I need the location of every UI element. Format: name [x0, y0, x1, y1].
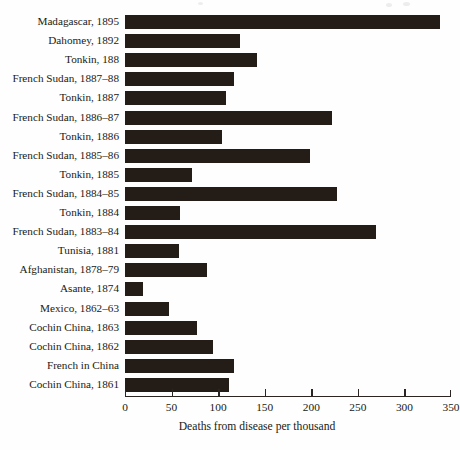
bar [125, 34, 240, 48]
bar [125, 206, 180, 220]
bar-row: Tonkin, 188 [125, 52, 451, 71]
bar [125, 53, 257, 67]
bar-category-label: Tonkin, 1886 [59, 128, 119, 144]
bar-category-label: Dahomey, 1892 [48, 32, 119, 48]
bar-category-label: French Sudan, 1884–85 [12, 185, 119, 201]
bar-category-label: Tonkin, 188 [65, 51, 119, 67]
bar-row: Cochin China, 1862 [125, 339, 451, 358]
x-axis-right-cap [450, 390, 451, 397]
bar-category-label: Tonkin, 1884 [59, 204, 119, 220]
bar-row: Dahomey, 1892 [125, 33, 451, 52]
x-axis-tick [404, 389, 405, 397]
bar-row: Tonkin, 1887 [125, 90, 451, 109]
bar [125, 302, 169, 316]
bar-category-label: Madagascar, 1895 [37, 13, 119, 29]
x-axis-tick [265, 389, 266, 397]
bar-category-label: Tonkin, 1885 [59, 166, 119, 182]
x-axis-tick-label: 100 [210, 400, 227, 414]
x-axis-tick-label: 0 [122, 400, 128, 414]
scan-artifact [386, 3, 392, 7]
bar-category-label: Cochin China, 1861 [29, 376, 119, 392]
bar [125, 340, 213, 354]
bar-category-label: Tonkin, 1887 [59, 89, 119, 105]
bar [125, 263, 207, 277]
bar-row: French Sudan, 1887–88 [125, 71, 451, 90]
bar-category-label: French Sudan, 1885–86 [12, 147, 119, 163]
x-axis-tick-label: 200 [303, 400, 320, 414]
bar-row: French Sudan, 1883–84 [125, 224, 451, 243]
x-axis-tick-label: 350 [442, 400, 459, 414]
bar-rows: Madagascar, 1895Dahomey, 1892Tonkin, 188… [125, 14, 451, 396]
bar-row: Afghanistan, 1878–79 [125, 262, 451, 281]
bar-row: French in China [125, 358, 451, 377]
x-axis-tick [218, 389, 219, 397]
bar-category-label: Mexico, 1862–63 [40, 300, 119, 316]
bar-row: Asante, 1874 [125, 281, 451, 300]
bar [125, 244, 179, 258]
bar [125, 130, 222, 144]
bar-row: Tunisia, 1881 [125, 243, 451, 262]
bar-row: Tonkin, 1886 [125, 129, 451, 148]
scan-artifact [403, 2, 410, 6]
chart-figure: Madagascar, 1895Dahomey, 1892Tonkin, 188… [0, 0, 460, 450]
x-axis-tick-label: 150 [256, 400, 273, 414]
bar-row: French Sudan, 1884–85 [125, 186, 451, 205]
bar [125, 187, 337, 201]
scan-artifact [198, 2, 203, 5]
bar-category-label: Afghanistan, 1878–79 [20, 261, 119, 277]
bar-row: French Sudan, 1885–86 [125, 148, 451, 167]
bar-category-label: Tunisia, 1881 [58, 242, 119, 258]
bar-category-label: Asante, 1874 [60, 280, 119, 296]
bar [125, 111, 332, 125]
bar-category-label: Cochin China, 1862 [29, 338, 119, 354]
x-axis-tick [311, 389, 312, 397]
bar [125, 168, 192, 182]
bar [125, 91, 226, 105]
plot-area: Madagascar, 1895Dahomey, 1892Tonkin, 188… [125, 14, 451, 396]
bar [125, 72, 234, 86]
x-axis-tick [172, 389, 173, 397]
bar-category-label: French in China [47, 357, 119, 373]
bar [125, 282, 143, 296]
x-axis-label-text: Deaths from disease per thousand [179, 420, 335, 433]
bar-row: Tonkin, 1884 [125, 205, 451, 224]
bar-row: Cochin China, 1863 [125, 320, 451, 339]
bar-category-label: Cochin China, 1863 [29, 319, 119, 335]
bar [125, 359, 234, 373]
x-axis-tick [358, 389, 359, 397]
bar [125, 378, 229, 392]
bar [125, 225, 376, 239]
bar [125, 149, 310, 163]
x-axis-tick-label: 50 [166, 400, 177, 414]
bar-row: French Sudan, 1886–87 [125, 110, 451, 129]
bar-category-label: French Sudan, 1886–87 [12, 109, 119, 125]
bar [125, 15, 440, 29]
bar [125, 321, 197, 335]
bar-category-label: French Sudan, 1883–84 [12, 223, 119, 239]
bar-category-label: French Sudan, 1887–88 [12, 70, 119, 86]
x-axis-tick-label: 300 [396, 400, 413, 414]
x-axis-left-cap [125, 390, 126, 397]
x-axis-tick-label: 250 [349, 400, 366, 414]
bar-row: Madagascar, 1895 [125, 14, 451, 33]
bar-row: Cochin China, 1861 [125, 377, 451, 396]
x-axis-line [125, 396, 451, 397]
bar-row: Mexico, 1862–63 [125, 301, 451, 320]
x-axis-label: Deaths from disease per thousand [0, 420, 460, 433]
bar-row: Tonkin, 1885 [125, 167, 451, 186]
